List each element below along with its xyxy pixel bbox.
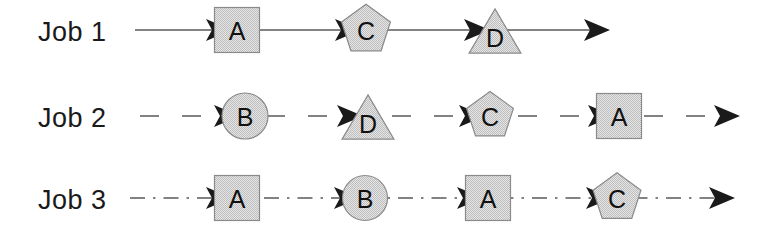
machine-label: A (480, 185, 497, 213)
job-label-2: Job 2 (38, 103, 107, 133)
machine-label: C (357, 17, 375, 45)
job-label-3: Job 3 (38, 185, 107, 215)
rows-layer: Job 1ACDJob 2BDCAJob 3ABAC (38, 4, 740, 220)
machine-label: B (237, 103, 254, 131)
job-row-2: Job 2BDCA (38, 91, 740, 139)
machine-label: D (486, 24, 504, 52)
machine-label: A (611, 103, 628, 131)
machine-label: A (229, 17, 246, 45)
job-label-1: Job 1 (38, 17, 107, 47)
job-routing-diagram: Job 1ACDJob 2BDCAJob 3ABAC (0, 0, 759, 236)
machine-label: C (481, 103, 499, 131)
machine-label: B (357, 185, 374, 213)
arrow-head-icon (714, 105, 740, 127)
job-row-3: Job 3ABAC (38, 173, 735, 221)
machine-label: D (359, 110, 377, 138)
machine-label: A (229, 185, 246, 213)
job-row-1: Job 1ACD (38, 4, 610, 53)
machine-label: C (608, 185, 626, 213)
diagram-canvas: Job 1ACDJob 2BDCAJob 3ABAC (0, 0, 759, 236)
